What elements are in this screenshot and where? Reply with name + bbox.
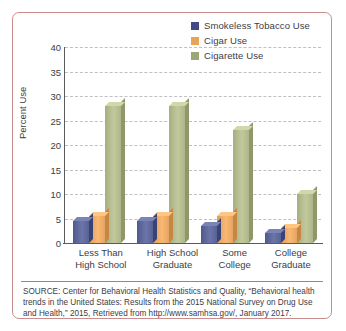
- y-tick-10: 10: [50, 189, 61, 200]
- bar-side: [313, 186, 317, 243]
- legend-swatch-cigar-use: [191, 37, 199, 45]
- legend-swatch-smokeless-tobacco-use: [191, 22, 199, 30]
- bar-side: [249, 122, 253, 243]
- y-axis-ticks: 4035302520151050: [35, 47, 61, 243]
- bar-group: [137, 47, 185, 243]
- bar-group: [73, 47, 121, 243]
- bar-face: [201, 226, 217, 243]
- y-axis-label: Percent Use: [17, 87, 28, 139]
- x-tick-label: Less ThanHigh School: [75, 247, 126, 270]
- chart-figure: Smokeless Tobacco Use Cigar Use Cigarett…: [12, 12, 332, 319]
- x-tick-label: High SchoolGraduate: [147, 247, 198, 270]
- source-divider: [21, 281, 323, 282]
- y-tick-35: 35: [50, 66, 61, 77]
- bar-group: [265, 47, 313, 243]
- x-tick-label: SomeCollege: [219, 247, 251, 270]
- y-tick-30: 30: [50, 91, 61, 102]
- legend-label-cigar-use: Cigar Use: [204, 35, 247, 46]
- bar-groups: [65, 47, 321, 243]
- bar: [201, 226, 217, 243]
- y-tick-25: 25: [50, 115, 61, 126]
- x-tick-label: CollegeGraduate: [271, 247, 311, 270]
- bar-group: [201, 47, 249, 243]
- y-tick-0: 0: [56, 238, 61, 249]
- y-tick-5: 5: [56, 213, 61, 224]
- legend-item-cigar-use: Cigar Use: [191, 34, 310, 47]
- bar: [137, 221, 153, 243]
- legend-label-smokeless-tobacco-use: Smokeless Tobacco Use: [204, 20, 310, 31]
- bar-face: [137, 221, 153, 243]
- y-tick-40: 40: [50, 42, 61, 53]
- source-note: SOURCE: Center for Behavioral Health Sta…: [23, 286, 321, 319]
- x-axis-line: [63, 243, 323, 244]
- bar-face: [265, 233, 281, 243]
- y-tick-20: 20: [50, 140, 61, 151]
- bar-side: [121, 98, 125, 243]
- bar: [73, 221, 89, 243]
- plot-area: Percent Use 4035302520151050 Less ThanHi…: [13, 47, 331, 279]
- x-axis-labels: Less ThanHigh SchoolHigh SchoolGraduateS…: [65, 247, 321, 270]
- legend-item-smokeless-tobacco-use: Smokeless Tobacco Use: [191, 19, 310, 32]
- bar-face: [73, 221, 89, 243]
- y-tick-15: 15: [50, 164, 61, 175]
- bar: [265, 233, 281, 243]
- bar-side: [185, 98, 189, 243]
